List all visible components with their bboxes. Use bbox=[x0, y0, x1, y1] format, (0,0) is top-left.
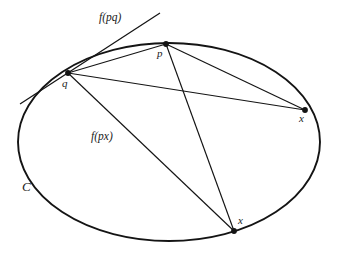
point-marker-x-bottom bbox=[231, 228, 237, 234]
curve-c-ellipse bbox=[18, 43, 320, 241]
point-marker-q bbox=[65, 70, 71, 76]
point-marker-p bbox=[163, 41, 169, 47]
figure-canvas bbox=[0, 0, 339, 256]
label-point-p: p bbox=[157, 48, 163, 59]
label-point-q: q bbox=[62, 78, 68, 89]
tangent-line-f-pq bbox=[20, 13, 160, 104]
label-f-pq: f(pq) bbox=[99, 12, 121, 24]
label-point-x-right: x bbox=[299, 113, 304, 124]
label-curve-c: C bbox=[22, 180, 31, 193]
label-point-x-bottom: x bbox=[238, 215, 243, 226]
segment-q-x-bottom bbox=[68, 73, 234, 231]
segment-q-x-right bbox=[68, 73, 305, 110]
geometry-figure: f(pq) f(px) p q x x C bbox=[0, 0, 339, 256]
label-f-px: f(px) bbox=[91, 131, 113, 143]
